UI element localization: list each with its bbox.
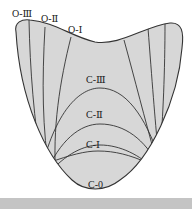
label-o1: O-Ⅰ: [68, 24, 83, 35]
zone-diagram: O-Ⅲ O-Ⅱ O-Ⅰ C-Ⅲ C-Ⅱ C-Ⅰ C-0: [0, 0, 192, 209]
footer-bar: [0, 198, 192, 209]
zone-outline: [16, 20, 183, 189]
label-o2: O-Ⅱ: [41, 13, 59, 24]
label-c3: C-Ⅲ: [86, 74, 106, 85]
label-c1: C-Ⅰ: [86, 139, 100, 150]
label-c2: C-Ⅱ: [86, 109, 103, 120]
label-o3: O-Ⅲ: [12, 8, 33, 19]
label-c0: C-0: [88, 179, 103, 190]
